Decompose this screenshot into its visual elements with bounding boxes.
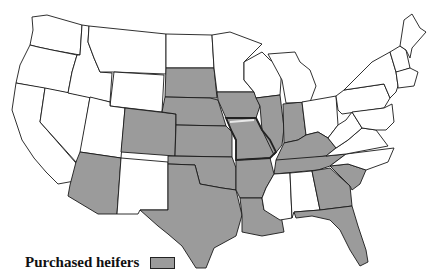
state-florida xyxy=(294,206,368,266)
state-massachusetts-ct-ri xyxy=(396,68,418,88)
us-map xyxy=(0,0,430,280)
state-iowa xyxy=(217,92,260,118)
state-new-mexico xyxy=(117,158,168,214)
state-wyoming xyxy=(110,72,164,112)
state-kansas xyxy=(175,125,232,157)
legend-label: Purchased heifers xyxy=(25,254,139,271)
legend-swatch xyxy=(150,257,175,269)
state-arizona xyxy=(68,152,121,214)
state-colorado xyxy=(121,108,176,156)
legend: Purchased heifers xyxy=(25,254,175,271)
state-montana xyxy=(88,26,166,74)
state-north-dakota xyxy=(166,34,214,68)
state-south-dakota xyxy=(165,68,217,98)
